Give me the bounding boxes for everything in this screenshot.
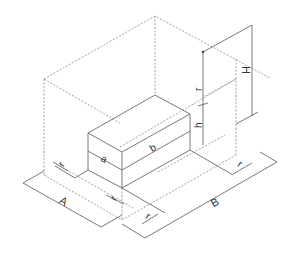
dimension-r-front-left: r: [106, 193, 124, 204]
label-A: A: [58, 194, 71, 208]
label-r-top: r: [193, 87, 204, 91]
clearance-envelope: [44, 16, 270, 220]
label-b: b: [147, 141, 158, 154]
dimension-r-front-right: r: [142, 210, 158, 224]
dimension-diagram: A B H r h a b r r r r: [0, 0, 292, 255]
box: [88, 95, 190, 188]
label-B: B: [209, 195, 221, 209]
dimension-r-h-vertical: r h: [193, 51, 208, 145]
dimension-a-outer: A: [23, 171, 122, 227]
label-a: a: [99, 153, 110, 166]
dimension-b-outer: B: [122, 152, 277, 238]
label-h: h: [193, 122, 204, 128]
floor-outline: [55, 150, 233, 213]
label-H: H: [240, 66, 252, 74]
label-r-front-left: r: [108, 193, 120, 202]
dimension-h-outer: H: [203, 25, 258, 124]
label-r-left: r: [56, 159, 68, 168]
dimension-r-right: r: [233, 158, 252, 174]
